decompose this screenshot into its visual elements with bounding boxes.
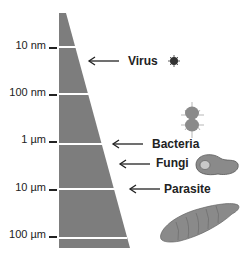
fungi-icon (196, 155, 238, 175)
tick-label-1um: 1 µm (0, 133, 46, 145)
bacteria-icon (181, 102, 204, 138)
label-fungi: Fungi (156, 156, 189, 170)
tick-label-10um: 10 µm (0, 181, 46, 193)
tick-label-100nm: 100 nm (0, 86, 46, 98)
tick-label-100um: 100 µm (0, 228, 46, 240)
tick-mark (49, 236, 57, 238)
tick-mark (49, 189, 57, 191)
label-virus: Virus (128, 54, 158, 68)
tick-mark (49, 47, 57, 49)
tick-label-10nm: 10 nm (0, 39, 46, 51)
size-scale-diagram: 10 nm 100 nm 1 µm 10 µm 100 µm Virus Bac… (0, 0, 250, 263)
tick-mark (49, 141, 57, 143)
virus-icon (168, 55, 180, 67)
tick-mark (49, 94, 57, 96)
label-parasite: Parasite (164, 182, 211, 196)
parasite-icon (161, 204, 239, 242)
label-bacteria: Bacteria (152, 137, 199, 151)
